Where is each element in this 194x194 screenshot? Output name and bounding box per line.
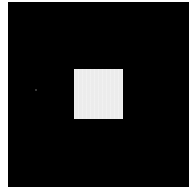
black-canvas bbox=[8, 2, 189, 187]
small-dot bbox=[35, 89, 37, 91]
white-square bbox=[74, 69, 123, 119]
